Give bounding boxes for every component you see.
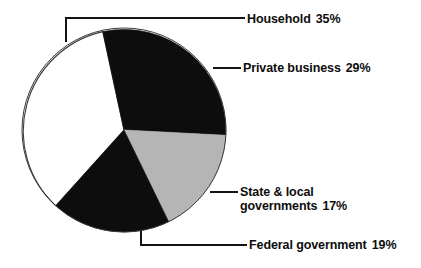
pie-label-state-local-governments[interactable]: State & local governments17% bbox=[240, 185, 347, 213]
pie-label-federal-government-text: Federal government bbox=[249, 238, 367, 252]
pie-chart-figure: Household35% Private business29% State &… bbox=[0, 0, 421, 268]
pie-label-household-value: 35% bbox=[316, 12, 341, 26]
pie-label-private-business[interactable]: Private business29% bbox=[243, 61, 370, 75]
pie-label-state-local-governments-text-line1: State & local bbox=[240, 185, 314, 199]
leader-line-federal-government bbox=[141, 232, 246, 245]
pie-label-state-local-governments-line2: governments17% bbox=[240, 199, 347, 213]
pie-label-household-text: Household bbox=[247, 12, 311, 26]
pie-label-federal-government-value: 19% bbox=[372, 238, 397, 252]
pie-label-private-business-text: Private business bbox=[243, 61, 341, 75]
pie-chart-graphic bbox=[0, 0, 421, 268]
pie-label-federal-government[interactable]: Federal government19% bbox=[249, 238, 396, 252]
pie-label-state-local-governments-value: 17% bbox=[322, 199, 347, 213]
pie-label-state-local-governments-text-line2: governments bbox=[240, 199, 317, 213]
pie-label-private-business-value: 29% bbox=[346, 61, 371, 75]
pie-label-household[interactable]: Household35% bbox=[247, 12, 340, 26]
